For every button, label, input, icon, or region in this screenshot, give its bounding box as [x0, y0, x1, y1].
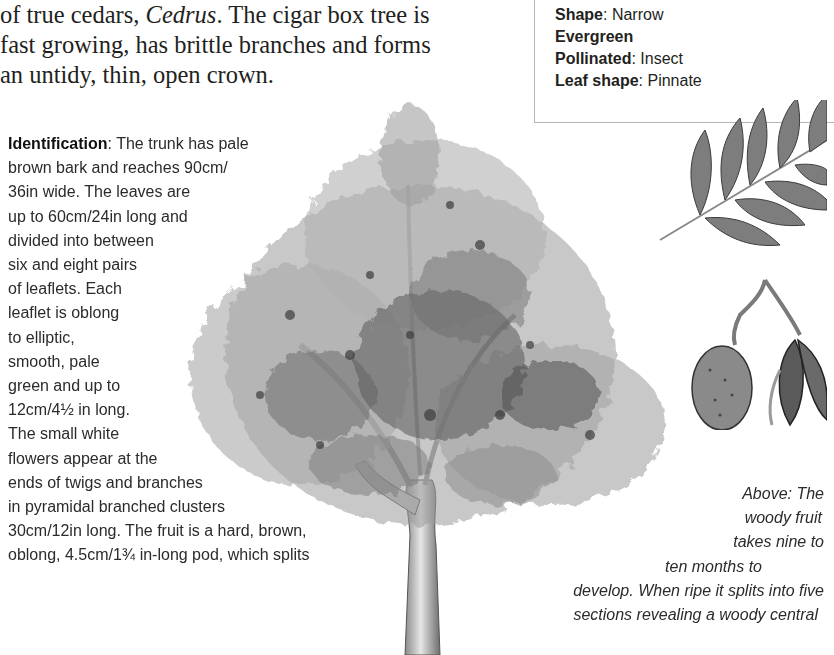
- genus-name: Cedrus: [146, 1, 217, 28]
- identification-line: to elliptic,: [8, 326, 310, 350]
- identification-line: ends of twigs and branches: [8, 471, 310, 495]
- identification-line: leaflet is oblong: [8, 301, 310, 325]
- identification-line: up to 60cm/24in long and: [8, 205, 310, 229]
- identification-label: Identification: [8, 135, 108, 152]
- identification-line: brown bark and reaches 90cm/: [8, 156, 310, 180]
- identification-line: 36in wide. The leaves are: [8, 180, 310, 204]
- identification-line: in pyramidal branched clusters: [8, 495, 310, 519]
- leaf-illustration: [655, 100, 827, 250]
- fact-shape: Shape: Narrow: [555, 4, 702, 26]
- identification-line: flowers appear at the: [8, 447, 310, 471]
- identification-line: divided into between: [8, 229, 310, 253]
- identification-line: 30cm/12in long. The fruit is a hard, bro…: [8, 519, 310, 543]
- identification-paragraph: Identification: The trunk has pale brown…: [8, 132, 310, 568]
- caption-line: ten months to: [573, 555, 824, 579]
- caption-line: Above: The: [573, 482, 824, 506]
- intro-paragraph: of true cedars, Cedrus. The cigar box tr…: [0, 0, 420, 90]
- caption-line: develop. When ripe it splits into five: [573, 579, 824, 603]
- fruit-caption: Above: The woody fruit takes nine to ten…: [573, 482, 824, 627]
- fact-leaf-shape: Leaf shape: Pinnate: [555, 70, 702, 92]
- caption-line: takes nine to: [573, 530, 824, 554]
- fruit-illustration: [680, 270, 827, 430]
- fact-pollinated: Pollinated: Insect: [555, 48, 702, 70]
- identification-line: Identification: The trunk has pale: [8, 132, 310, 156]
- fact-evergreen: Evergreen: [555, 26, 702, 48]
- intro-line-1: of true cedars, Cedrus. The cigar box tr…: [0, 0, 420, 30]
- identification-line: green and up to: [8, 374, 310, 398]
- identification-line: six and eight pairs: [8, 253, 310, 277]
- intro-line-3: an untidy, thin, open crown.: [0, 60, 420, 90]
- caption-line: sections revealing a woody central: [573, 603, 824, 627]
- identification-line: The small white: [8, 422, 310, 446]
- identification-line: smooth, pale: [8, 350, 310, 374]
- identification-line: oblong, 4.5cm/1¾ in-long pod, which spli…: [8, 543, 310, 567]
- caption-line: woody fruit: [573, 506, 824, 530]
- intro-line-2: fast growing, has brittle branches and f…: [0, 30, 420, 60]
- identification-line: of leaflets. Each: [8, 277, 310, 301]
- identification-line: 12cm/4½ in long.: [8, 398, 310, 422]
